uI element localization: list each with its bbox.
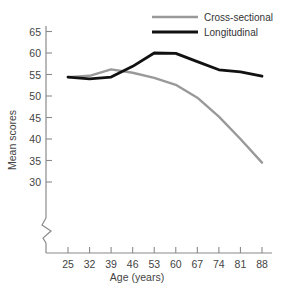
x-tick-label: 39 (105, 258, 117, 270)
y-tick-label: 30 (29, 176, 41, 188)
legend-label-longitudinal: Longitudinal (204, 27, 258, 38)
x-tick-label: 60 (170, 258, 182, 270)
y-tick-label: 65 (29, 26, 41, 38)
y-axis-title: Mean scores (6, 110, 18, 170)
y-tick-labels: 65 60 55 50 45 40 35 30 (29, 26, 41, 189)
y-tick-label: 55 (29, 69, 41, 81)
series-line-longitudinal (68, 53, 262, 79)
x-tick-label: 81 (235, 258, 247, 270)
y-axis-break-icon (42, 218, 51, 243)
x-tick-label: 88 (256, 258, 268, 270)
chart-svg: 65 60 55 50 45 40 35 30 2532394653606774… (0, 0, 285, 288)
x-tick-label: 25 (62, 258, 74, 270)
x-tick-label: 46 (127, 258, 139, 270)
y-tick-label: 60 (29, 47, 41, 59)
y-tick-label: 40 (29, 133, 41, 145)
x-axis-title: Age (years) (110, 271, 164, 283)
x-tick-label: 67 (191, 258, 203, 270)
y-tick-label: 35 (29, 155, 41, 167)
line-chart: 65 60 55 50 45 40 35 30 2532394653606774… (0, 0, 285, 288)
x-tick-marks (68, 247, 262, 253)
x-tick-labels: 25323946536067748188 (62, 258, 268, 270)
y-tick-label: 50 (29, 90, 41, 102)
series-line-cross-sectional (68, 69, 262, 162)
y-tick-marks (46, 32, 52, 183)
x-tick-label: 53 (148, 258, 160, 270)
y-tick-label: 45 (29, 112, 41, 124)
x-tick-label: 32 (84, 258, 96, 270)
legend: Cross-sectional Longitudinal (152, 12, 273, 38)
x-tick-label: 74 (213, 258, 225, 270)
legend-label-cross-sectional: Cross-sectional (204, 12, 273, 23)
